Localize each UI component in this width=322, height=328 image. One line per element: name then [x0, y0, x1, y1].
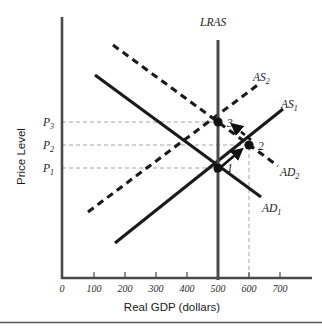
ad-as-chart: P3 P2 P1 Price Level 0 100 200 300 400 5… [0, 0, 322, 328]
curve-ad1 [95, 75, 261, 197]
x-tick-label-500: 500 [211, 283, 226, 294]
x-tick-label-100: 100 [87, 283, 102, 294]
ad2-label: AD2 [279, 166, 299, 181]
equilibrium-point-3 [213, 117, 222, 126]
x-tick-label-0: 0 [60, 283, 65, 294]
as2-label: AS2 [252, 71, 270, 86]
price-level-guide-lines [62, 122, 253, 278]
x-axis-tick-labels: 0 100 200 300 400 500 600 700 [60, 283, 288, 294]
point-2-label: 2 [258, 140, 264, 152]
x-tick-label-200: 200 [118, 283, 133, 294]
x-axis-title: Real GDP (dollars) [124, 301, 220, 313]
lras-label: LRAS [199, 16, 226, 28]
x-tick-label-600: 600 [242, 283, 257, 294]
y-axis-title: Price Level [15, 128, 27, 185]
price-label-p3: P3 [42, 116, 54, 131]
y-axis-price-labels: P3 P2 P1 [42, 116, 54, 177]
point-3-label: 3 [226, 117, 233, 129]
price-label-p2: P2 [42, 139, 54, 154]
ad1-label: AD1 [261, 202, 281, 217]
x-tick-label-400: 400 [180, 283, 195, 294]
point-1-label: 1 [227, 162, 233, 174]
equilibrium-point-2 [244, 140, 253, 149]
ad-as-diagram-figure: P3 P2 P1 Price Level 0 100 200 300 400 5… [0, 0, 322, 328]
x-tick-label-300: 300 [148, 283, 164, 294]
x-tick-label-700: 700 [273, 283, 288, 294]
price-label-p1: P1 [42, 162, 54, 177]
